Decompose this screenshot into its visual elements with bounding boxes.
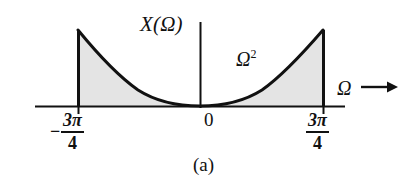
tick-label-left-sign: − bbox=[50, 121, 60, 142]
tick-label-right-denominator: 4 bbox=[306, 133, 329, 153]
tick-label-left-numerator: 3π bbox=[61, 111, 84, 133]
tick-label-left-denominator: 4 bbox=[61, 133, 84, 153]
figure-container: X(Ω) Ω2 Ω 0 − 3π 4 3π 4 (a) bbox=[0, 0, 407, 188]
curve-equation-label: Ω2 bbox=[236, 48, 256, 69]
tick-label-left: − 3π 4 bbox=[61, 111, 84, 153]
origin-label: 0 bbox=[204, 110, 214, 129]
curve-label-exponent: 2 bbox=[250, 47, 256, 61]
tick-label-right-numerator: 3π bbox=[306, 111, 329, 133]
curve-label-base: Ω bbox=[236, 48, 250, 70]
arrow-right-icon bbox=[359, 78, 399, 96]
horizontal-axis-label: Ω bbox=[337, 78, 351, 98]
figure-caption: (a) bbox=[0, 155, 407, 174]
tick-label-right: 3π 4 bbox=[306, 111, 329, 153]
vertical-axis-label: X(Ω) bbox=[140, 14, 183, 35]
